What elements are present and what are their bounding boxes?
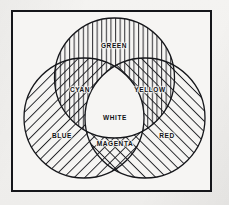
figure-root: GREEN BLUE RED CYAN YELLOW MAGENTA WHITE — [0, 0, 229, 205]
venn-diagram — [0, 0, 229, 205]
